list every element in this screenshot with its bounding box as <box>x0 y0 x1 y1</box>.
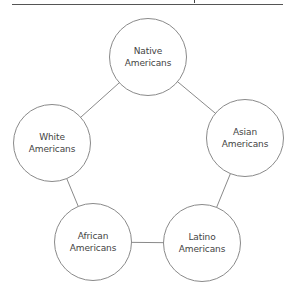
node-label-line2: Americans <box>125 57 172 69</box>
node-label-line2: Americans <box>222 138 269 150</box>
node-label-line2: Americans <box>70 242 117 254</box>
node-white-americans: White Americans <box>13 104 91 182</box>
node-african-americans: African Americans <box>54 203 132 281</box>
node-label-line2: Americans <box>29 143 76 155</box>
node-latino-americans: Latino Americans <box>163 204 241 282</box>
node-label-line1: African <box>78 230 109 242</box>
node-label-line1: White <box>39 131 65 143</box>
node-label-line1: Native <box>134 45 163 57</box>
node-native-americans: Native Americans <box>109 18 187 96</box>
node-asian-americans: Asian Americans <box>206 99 284 177</box>
node-label-line1: Latino <box>188 231 215 243</box>
node-label-line1: Asian <box>233 126 257 138</box>
node-label-line2: Americans <box>179 243 226 255</box>
